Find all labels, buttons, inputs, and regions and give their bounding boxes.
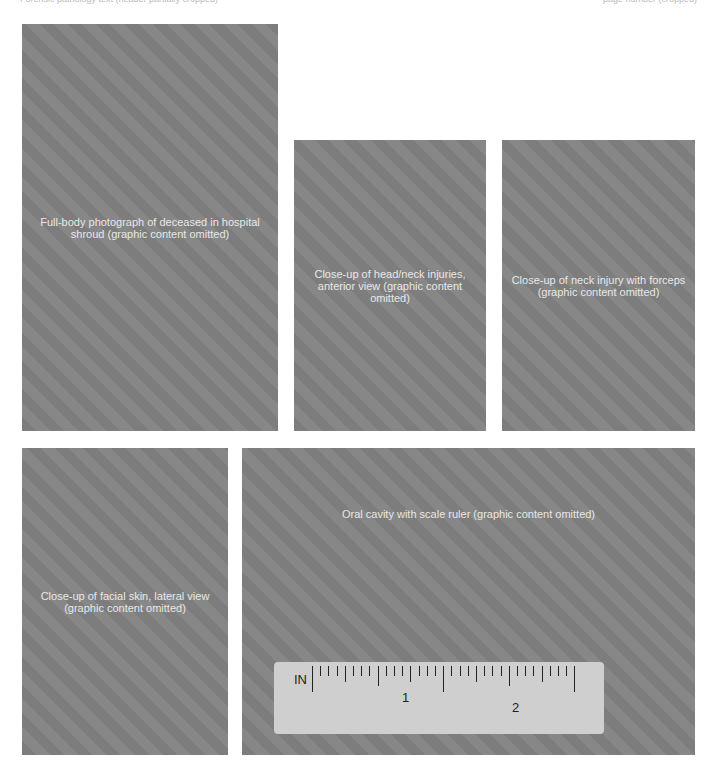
running-header-left: Forensic pathology text (header partiall… [20,0,218,4]
ruler-tick [435,666,436,676]
figure-panel-b: Close-up of head/neck injuries, anterior… [294,140,486,431]
ruler-tick [550,666,551,676]
ruler-tick [484,666,485,676]
figure-placeholder: Close-up of neck injury with forceps (gr… [502,140,695,431]
ruler-tick [369,666,370,676]
ruler-tick [386,666,387,676]
ruler-tick [312,666,313,692]
ruler-tick [566,666,567,676]
ruler-tick [451,666,452,676]
ruler-mark-2: 2 [512,700,519,715]
ruler-tick [320,666,321,676]
ruler-tick [558,666,559,676]
ruler-tick [345,666,346,682]
ruler-unit-label: IN [294,672,307,687]
ruler-tick [328,666,329,676]
ruler-tick [517,666,518,676]
ruler-tick [378,666,379,686]
ruler-tick [542,666,543,682]
ruler-tick [476,666,477,682]
figure-panel-c: Close-up of neck injury with forceps (gr… [502,140,695,431]
ruler-tick [574,666,575,692]
figure-placeholder: Full-body photograph of deceased in hosp… [22,24,278,431]
ruler-mark-1: 1 [402,690,409,705]
scale-ruler: IN 1 2 [274,662,604,734]
ruler-tick [501,666,502,676]
figure-panel-a: Full-body photograph of deceased in hosp… [22,24,278,431]
ruler-tick [361,666,362,676]
ruler-tick [509,666,510,686]
ruler-tick [419,666,420,676]
ruler-tick [394,666,395,676]
ruler-tick [533,666,534,676]
figure-panel-d: Close-up of facial skin, lateral view (g… [22,448,228,755]
figure-placeholder: Close-up of head/neck injuries, anterior… [294,140,486,431]
ruler-tick [492,666,493,676]
ruler-tick [402,666,403,676]
ruler-tick [410,666,411,682]
ruler-tick [525,666,526,676]
figure-placeholder: Close-up of facial skin, lateral view (g… [22,448,228,755]
ruler-tick [468,666,469,676]
ruler-tick [337,666,338,676]
running-header-right: page number (cropped) [603,0,697,4]
ruler-tick [427,666,428,676]
ruler-tick [353,666,354,676]
ruler-tick [443,666,444,692]
ruler-tick [460,666,461,676]
